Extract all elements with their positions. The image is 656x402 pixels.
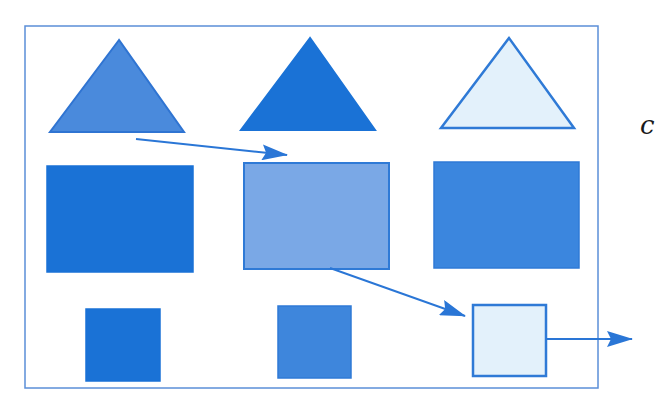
- square-light-blue: [473, 305, 546, 376]
- shapes-layer: [47, 38, 579, 381]
- rectangle-faded-blue: [244, 163, 389, 269]
- rectangle-medium-blue: [434, 162, 579, 268]
- square-dark-blue: [86, 309, 160, 381]
- triangle-light-blue: [441, 38, 574, 128]
- triangle-medium-blue: [50, 40, 184, 132]
- rectangle-dark-blue: [47, 166, 193, 272]
- triangle-dark-blue: [241, 38, 375, 130]
- arrow-triangle-to-rectangle: [136, 139, 287, 155]
- square-medium-blue: [278, 306, 351, 378]
- cropped-edge-letter: c: [640, 112, 655, 138]
- shape-diagram: [0, 0, 656, 402]
